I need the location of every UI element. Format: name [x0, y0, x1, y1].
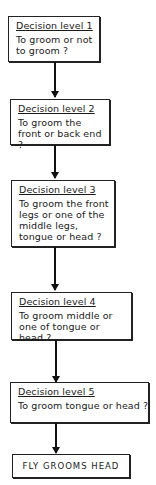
decision-level-4-question: To groom middle or one of tongue or head…	[19, 310, 126, 343]
arrow-1-to-2	[54, 62, 56, 97]
decision-level-3-box: Decision level 3 To groom the front legs…	[11, 180, 115, 247]
decision-level-5-question: To groom tongue or head ?	[18, 400, 143, 411]
decision-level-2-question: To groom the front or back end ?	[18, 117, 104, 150]
arrow-2-to-3	[54, 145, 56, 178]
decision-level-4-title: Decision level 4	[19, 296, 126, 308]
decision-level-2-title: Decision level 2	[18, 103, 104, 115]
outcome-label: FLY GROOMS HEAD	[23, 461, 120, 471]
decision-level-3-title: Decision level 3	[19, 184, 109, 196]
arrow-3-to-4	[54, 247, 56, 290]
decision-level-2-box: Decision level 2 To groom the front or b…	[10, 99, 110, 145]
decision-level-1-question: To groom or not to groom ?	[16, 34, 94, 56]
decision-level-5-title: Decision level 5	[18, 386, 143, 398]
outcome-box: FLY GROOMS HEAD	[12, 454, 130, 478]
decision-level-3-question: To groom the front legs or one of the mi…	[19, 198, 109, 242]
decision-level-5-box: Decision level 5 To groom tongue or head…	[10, 382, 149, 423]
decision-level-4-box: Decision level 4 To groom middle or one …	[11, 292, 132, 340]
decision-level-1-box: Decision level 1 To groom or not to groo…	[8, 16, 100, 62]
arrow-5-to-outcome	[55, 423, 57, 453]
arrow-4-to-5	[55, 340, 57, 382]
decision-level-1-title: Decision level 1	[16, 20, 94, 32]
